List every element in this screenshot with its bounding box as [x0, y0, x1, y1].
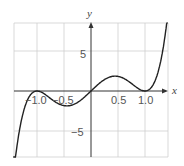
y-axis-label: y — [86, 7, 92, 19]
y-tick-neg5: −5 — [71, 126, 84, 138]
y-tick-5: 5 — [80, 48, 86, 60]
x-tick-neg1: −1.0 — [25, 94, 47, 106]
x-tick-05: 0.5 — [111, 94, 126, 106]
x-tick-1: 1.0 — [138, 94, 153, 106]
function-curve — [13, 23, 168, 157]
function-graph: x y −1.0 −0.5 0.5 1.0 5 −5 — [0, 0, 184, 166]
x-axis-label: x — [171, 84, 177, 96]
x-tick-neg05: −0.5 — [52, 94, 74, 106]
x-axis-arrow-icon — [162, 89, 168, 94]
